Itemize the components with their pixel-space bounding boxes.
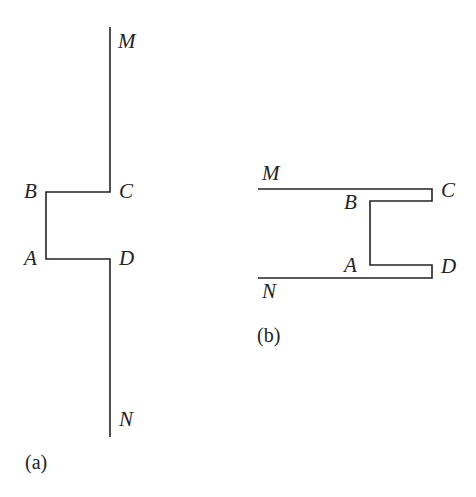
label-a-A: A: [24, 248, 37, 269]
label-a-M: M: [118, 31, 136, 52]
label-b-B: B: [344, 192, 357, 213]
panel-b-caption: (b): [257, 325, 280, 345]
label-b-N: N: [262, 281, 276, 302]
panel-a-caption: (a): [25, 452, 47, 472]
label-a-B: B: [24, 181, 37, 202]
label-a-N: N: [119, 409, 133, 430]
label-a-C: C: [119, 181, 133, 202]
label-b-C: C: [441, 180, 455, 201]
panel-a-crack-path: [46, 27, 110, 437]
label-a-D: D: [119, 248, 134, 269]
panel-a-geometry: [46, 27, 110, 437]
figure-root: M B C A D N (a) M C B A D N (b): [0, 0, 476, 497]
label-b-M: M: [262, 163, 280, 184]
label-b-A: A: [344, 255, 357, 276]
figure-canvas: [0, 0, 476, 497]
label-b-D: D: [441, 256, 456, 277]
